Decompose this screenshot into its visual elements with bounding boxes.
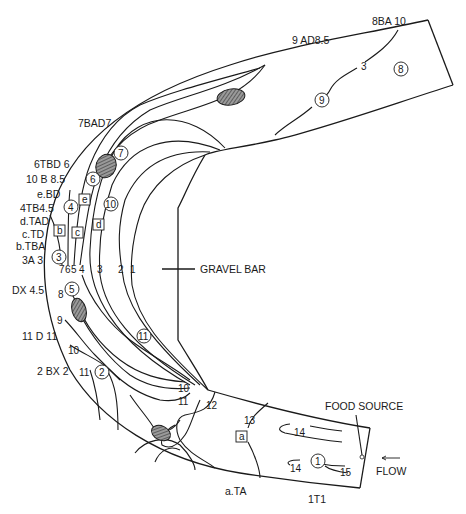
svg-text:7: 7 <box>118 148 124 159</box>
river-bend-diagram: 8BA 10 9 AD8.5 7BAD7 6TBD 6 10 B 8.5 e.B… <box>0 0 466 514</box>
svg-text:e: e <box>82 194 88 205</box>
circled-marker-5: 5 <box>65 282 79 296</box>
circled-marker-3: 3 <box>52 250 66 264</box>
territory-label: e.BD <box>37 188 61 200</box>
svg-text:6: 6 <box>90 174 96 185</box>
contour-label: 15 <box>340 467 352 478</box>
contour-label: 3 <box>361 61 367 72</box>
svg-text:1: 1 <box>315 456 321 467</box>
svg-text:2: 2 <box>99 367 105 378</box>
svg-text:b: b <box>57 225 63 236</box>
contour-label: 3 <box>97 264 103 275</box>
boxed-marker-d: d <box>93 219 104 230</box>
contour-label: 11 <box>178 396 189 407</box>
boxed-marker-e: e <box>79 194 90 205</box>
food-source-dot <box>360 455 364 459</box>
territory-label: 2 BX 2 <box>37 365 69 377</box>
svg-text:9: 9 <box>319 95 325 106</box>
circled-marker-9: 9 <box>315 93 329 107</box>
circled-marker-4: 4 <box>64 200 78 214</box>
territory-label: 9 AD8.5 <box>292 34 330 46</box>
contour-bend-4 <box>82 275 190 380</box>
contour-label: 10 <box>68 345 80 356</box>
hatched-site-upper <box>216 87 246 108</box>
contour-label: 14 <box>290 463 302 474</box>
contour-bend-bottom-a <box>135 440 195 470</box>
contour-label: 2 <box>118 264 124 275</box>
contour-label: 11 <box>79 367 90 378</box>
contour-label: 9 <box>57 315 63 326</box>
contour-14-upper <box>280 424 342 442</box>
circled-marker-7: 7 <box>114 146 128 160</box>
contour-label: 13 <box>244 415 256 426</box>
svg-text:10: 10 <box>105 199 117 210</box>
contour-label: 12 <box>206 400 218 411</box>
contour-label: 5 <box>71 264 77 275</box>
contour-label: 10 <box>178 383 190 394</box>
territory-label: 8BA 10 <box>372 15 406 27</box>
contour-bend-6 <box>78 310 190 389</box>
svg-text:11: 11 <box>138 331 149 342</box>
svg-text:3: 3 <box>56 252 62 263</box>
food-source-label: FOOD SOURCE <box>325 400 403 412</box>
svg-text:a: a <box>239 431 245 442</box>
flow-label: FLOW <box>376 465 406 477</box>
boxed-marker-c: c <box>72 227 83 238</box>
territory-label: 6TBD 6 <box>34 158 70 170</box>
contour-label: 8 <box>58 289 64 300</box>
circled-marker-1: 1 <box>311 454 325 468</box>
territory-label: 7BAD7 <box>78 117 111 129</box>
territory-label: d.TAD <box>20 215 49 227</box>
territory-label: a.TA <box>225 485 246 497</box>
territory-label: 4TB4.5 <box>20 202 54 214</box>
boxed-marker-a: a <box>236 431 247 442</box>
hatched-site-5 <box>69 297 89 324</box>
territory-label: DX 4.5 <box>12 284 44 296</box>
territory-label: 1T1 <box>308 493 326 505</box>
svg-text:d: d <box>96 219 102 230</box>
svg-text:4: 4 <box>68 202 74 213</box>
food-source-pointer <box>356 415 362 455</box>
circled-marker-8: 8 <box>394 62 408 76</box>
circled-marker-10: 10 <box>104 197 118 211</box>
contour-label: 14 <box>294 427 306 438</box>
upper-arm-end <box>428 20 453 85</box>
territory-label: c.TD <box>22 228 45 240</box>
boxed-marker-b: b <box>54 225 65 236</box>
territory-label: 11 D 11 <box>22 330 57 342</box>
territory-label: 3A 3 <box>22 254 43 266</box>
territory-label: b.TBA <box>16 240 45 252</box>
svg-text:c: c <box>75 227 80 238</box>
circled-marker-11: 11 <box>137 329 151 343</box>
svg-text:5: 5 <box>69 284 75 295</box>
svg-text:8: 8 <box>398 64 404 75</box>
gravel-bar-label: GRAVEL BAR <box>200 263 266 275</box>
contour-label: 4 <box>79 264 85 275</box>
contour-label: 1 <box>130 264 136 275</box>
circled-marker-6: 6 <box>86 172 100 186</box>
territory-label: 10 B 8.5 <box>26 173 65 185</box>
circled-marker-2: 2 <box>95 365 109 379</box>
